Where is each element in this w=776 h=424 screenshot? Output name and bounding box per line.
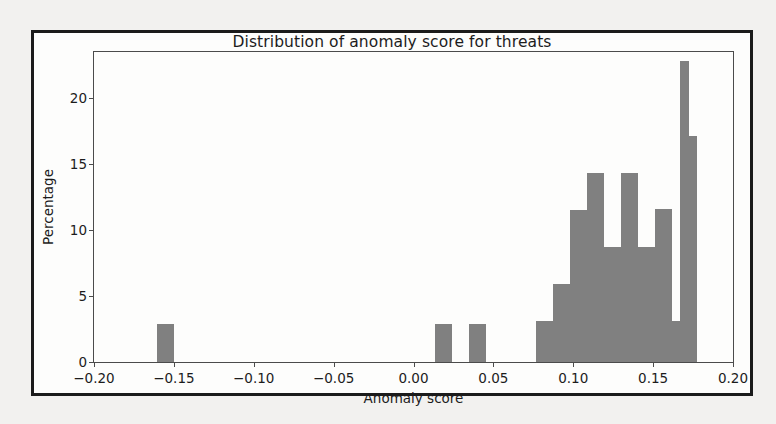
histogram-bar — [604, 247, 621, 362]
x-tick-mark — [334, 362, 335, 367]
histogram-bar — [587, 173, 604, 362]
x-tick-mark — [573, 362, 574, 367]
histogram-bar — [435, 324, 452, 362]
histogram-bar — [680, 61, 688, 362]
x-axis-label: Anomaly score — [364, 390, 464, 406]
histogram-bar — [655, 209, 672, 362]
x-tick-mark — [493, 362, 494, 367]
histogram-bar — [536, 321, 553, 362]
x-tick-mark — [653, 362, 654, 367]
x-tick-mark — [174, 362, 175, 367]
histogram-bar — [689, 136, 697, 362]
histogram-bar — [553, 284, 570, 362]
y-axis-label: Percentage — [40, 169, 56, 245]
x-tick-mark — [94, 362, 95, 367]
x-tick-mark — [254, 362, 255, 367]
x-tick-mark — [733, 362, 734, 367]
histogram-bar — [157, 324, 174, 362]
histogram-bar — [621, 173, 638, 362]
histogram-bar — [469, 324, 486, 362]
x-tick-mark — [414, 362, 415, 367]
histogram-bar — [672, 321, 680, 362]
figure-frame: Distribution of anomaly score for threat… — [31, 30, 753, 396]
histogram-bars — [94, 52, 733, 362]
plot-axes: Percentage Anomaly score 05101520 −0.20−… — [93, 51, 734, 363]
chart-figure: Distribution of anomaly score for threat… — [34, 33, 750, 393]
chart-title: Distribution of anomaly score for threat… — [34, 33, 750, 51]
histogram-bar — [570, 210, 587, 362]
